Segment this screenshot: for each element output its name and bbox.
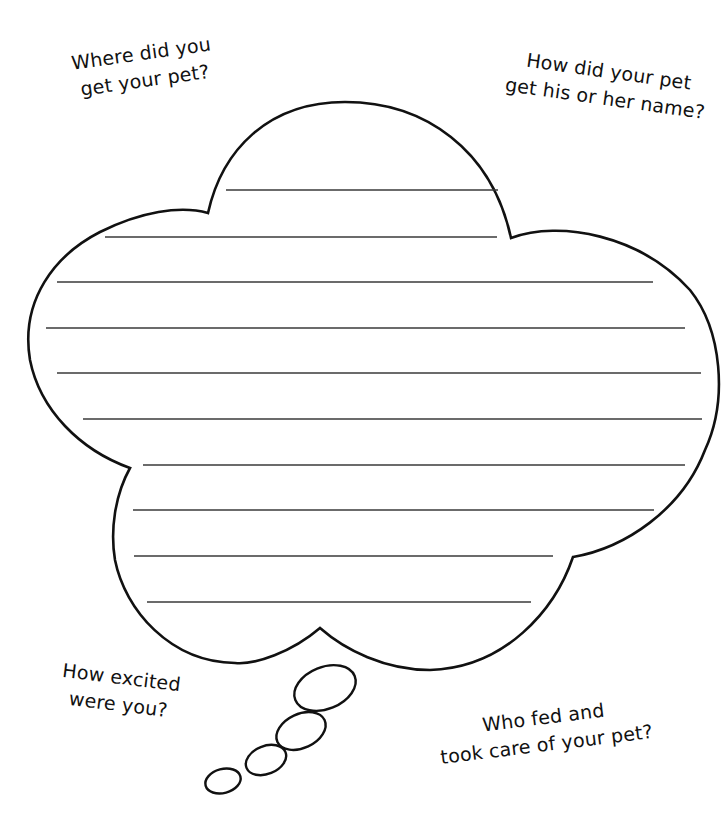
thought-bubble-small [241,739,290,781]
thought-bubble-large [287,657,362,720]
thought-bubble-tiny [203,765,244,797]
thought-bubble-medium [270,705,331,758]
writing-lines [46,190,702,602]
thought-trail-bubbles [203,657,363,798]
thought-cloud-outline [28,102,719,670]
pet-worksheet-page: Where did you get your pet? How did your… [0,0,726,818]
